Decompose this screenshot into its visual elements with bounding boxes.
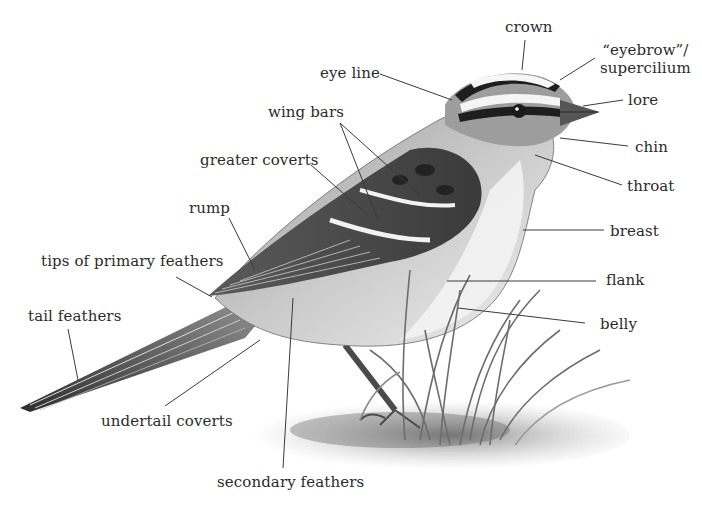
- label-throat: throat: [627, 177, 674, 195]
- label-crown: crown: [505, 18, 553, 36]
- label-belly: belly: [600, 315, 637, 333]
- label-eye-line: eye line: [320, 64, 380, 82]
- leader-eyebrow: [560, 58, 595, 80]
- leader-crown: [522, 40, 525, 70]
- leader-eye-line: [380, 74, 452, 100]
- label-undertail-coverts: undertail coverts: [101, 412, 233, 430]
- leader-lore: [583, 100, 623, 106]
- label-rump: rump: [189, 199, 230, 217]
- label-lore: lore: [628, 91, 658, 109]
- label-tips-of-primary-feathers: tips of primary feathers: [41, 252, 224, 270]
- label-breast: breast: [610, 222, 659, 240]
- label-secondary-feathers: secondary feathers: [217, 473, 364, 491]
- label-eyebrow-supercilium: “eyebrow”/ supercilium: [600, 41, 691, 77]
- leader-tips-primary: [176, 277, 212, 297]
- label-greater-coverts: greater coverts: [200, 151, 319, 169]
- ground: [230, 400, 630, 470]
- label-wing-bars: wing bars: [268, 103, 344, 121]
- leader-chin: [560, 138, 628, 146]
- label-tail-feathers: tail feathers: [28, 307, 121, 325]
- leader-tail-feathers: [68, 329, 78, 380]
- label-chin: chin: [635, 138, 668, 156]
- bird-anatomy-diagram: crown “eyebrow”/ supercilium eye line lo…: [0, 0, 702, 519]
- label-eyebrow-line2: supercilium: [600, 59, 691, 77]
- head: [445, 73, 600, 146]
- label-eyebrow-line1: “eyebrow”/: [600, 41, 691, 59]
- leader-rump: [229, 218, 255, 270]
- label-flank: flank: [606, 271, 645, 289]
